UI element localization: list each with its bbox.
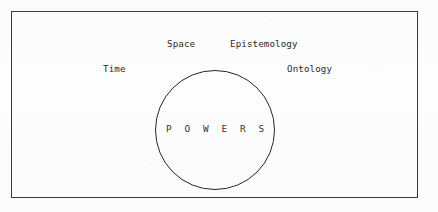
label-time: Time (103, 63, 126, 74)
label-ontology: Ontology (287, 63, 332, 74)
label-space: Space (167, 38, 195, 49)
label-epistemology: Epistemology (230, 38, 298, 49)
diagram-canvas: Space Epistemology Time Ontology P O W E… (0, 0, 438, 212)
label-powers: P O W E R S (155, 123, 275, 135)
